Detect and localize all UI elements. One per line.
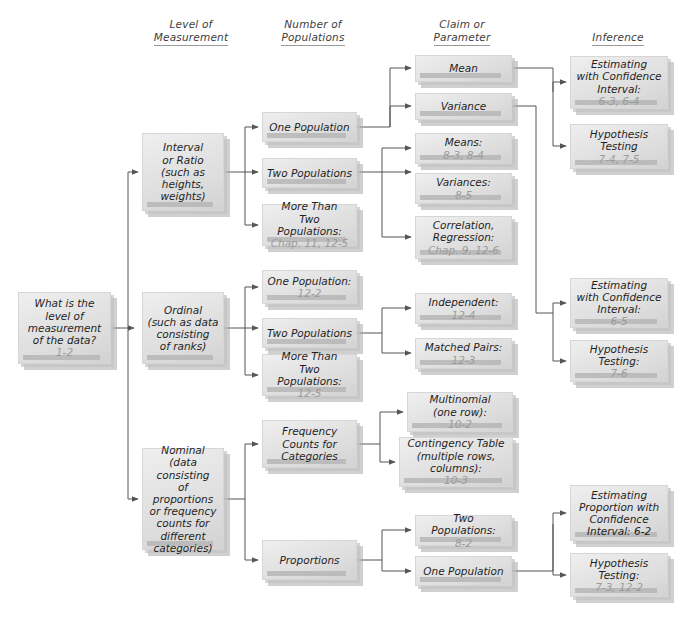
box-face: Estimating with Confidence Interval: 6-5 [570, 278, 668, 328]
node-label-line: measurement [24, 322, 106, 334]
box-face: Correlation, Regression: Chap. 9, 12-6 [415, 216, 512, 259]
box-face: Hypothesis Testing 7-4, 7-5 [570, 124, 668, 169]
node-label-line: consisting [152, 328, 213, 340]
node-reference: 12-4 [448, 309, 480, 321]
node-independent[interactable]: Independent: 12-4 [415, 293, 512, 324]
node-label-line: Mean [445, 62, 482, 74]
box-face: Contingency Table (multiple rows, column… [399, 437, 513, 487]
node-reference: 12-5 [294, 387, 326, 399]
node-label-line: weights) [157, 190, 210, 202]
node-label-line: Multinomial [425, 393, 494, 405]
node-hypothesis-testing-3[interactable]: Hypothesis Testing: 7-3, 12-2 [570, 553, 668, 597]
node-label-line: different [156, 530, 209, 542]
column-header-claim-or-parameter: Claim or Parameter [412, 18, 512, 46]
node-label-line: (one row): [429, 406, 491, 418]
node-label-line: Confidence [585, 513, 652, 525]
box-face: Estimating Proportion with Confidence In… [570, 485, 668, 541]
node-correlation-regression[interactable]: Correlation, Regression: Chap. 9, 12-6 [415, 216, 512, 259]
node-hypothesis-testing-1[interactable]: Hypothesis Testing 7-4, 7-5 [570, 124, 668, 169]
node-label-line: Testing [596, 140, 641, 152]
node-label-line: One Population [419, 565, 507, 577]
column-header-number-of-populations: Number of Populations [263, 18, 363, 46]
node-one-population-proportion[interactable]: One Population [415, 556, 512, 586]
node-label-line: counts for [153, 517, 214, 529]
box-face: Two Populations: 8-2 [415, 515, 512, 546]
node-label-line: columns): [426, 462, 486, 474]
node-start-question[interactable]: What is the level of measurement of the … [18, 292, 111, 364]
node-label-line: Estimating [587, 489, 651, 501]
node-two-populations-proportion[interactable]: Two Populations: 8-2 [415, 515, 512, 546]
node-reference: 6-5 [606, 315, 631, 327]
node-label-line: Two Populations: [416, 512, 511, 537]
node-two-populations-interval[interactable]: Two Populations [262, 158, 357, 188]
node-interval-or-ratio[interactable]: Interval or Ratio (such as heights, weig… [142, 133, 224, 211]
node-reference: 1-2 [52, 346, 77, 358]
node-means[interactable]: Means: 8-3, 8-4 [415, 133, 512, 164]
node-frequency-counts-for-categories[interactable]: Frequency Counts for Categories [262, 420, 357, 468]
node-label-line: What is the [31, 297, 99, 309]
node-matched-pairs[interactable]: Matched Pairs: 12-3 [415, 338, 512, 369]
node-multinomial[interactable]: Multinomial (one row): 10-2 [407, 392, 513, 432]
box-face: Multinomial (one row): 10-2 [407, 392, 513, 432]
node-label-line: Variances: [432, 176, 495, 188]
node-reference: 8-5 [451, 189, 476, 201]
node-proportions[interactable]: Proportions [262, 540, 357, 580]
node-label-line: Proportion with [575, 501, 663, 513]
box-face: Variance [415, 93, 512, 120]
node-hypothesis-testing-2[interactable]: Hypothesis Testing: 7-6 [570, 340, 668, 382]
column-header-line1: Claim or [412, 18, 512, 31]
node-one-population-interval[interactable]: One Population [262, 112, 357, 142]
node-variances[interactable]: Variances: 8-5 [415, 173, 512, 204]
node-label-line: Two Populations: [263, 213, 356, 238]
box-face: Variances: 8-5 [415, 173, 512, 204]
column-header-line1: Inference [592, 31, 643, 46]
node-more-than-two-populations-ordinal[interactable]: More Than Two Populations: 12-5 [262, 354, 357, 396]
node-contingency-table[interactable]: Contingency Table (multiple rows, column… [399, 437, 513, 487]
node-label-line: Means: [441, 136, 487, 148]
node-label-line: Testing: [595, 355, 644, 367]
node-label-line: of ranks) [156, 340, 211, 352]
node-reference: Chap. 11, 12-5 [267, 237, 353, 249]
column-header-line1: Number of [263, 18, 363, 31]
box-face: Frequency Counts for Categories [262, 420, 357, 468]
box-face: More Than Two Populations: Chap. 11, 12-… [262, 204, 357, 246]
node-reference: 10-2 [444, 418, 476, 430]
node-label-line: Interval: [593, 83, 645, 95]
node-label-line: More Than [278, 350, 342, 362]
node-label-line: Nominal [157, 444, 208, 456]
node-label-line: with Confidence [573, 291, 666, 303]
node-label-line: (such as [157, 166, 209, 178]
node-label-line: level of [41, 310, 87, 322]
node-label-line: Hypothesis [586, 343, 652, 355]
box-face: Means: 8-3, 8-4 [415, 133, 512, 164]
box-face: One Population [415, 556, 512, 586]
node-label-line: Counts for [278, 438, 340, 450]
node-mean[interactable]: Mean [415, 55, 512, 82]
node-label-line: Variance [437, 100, 491, 112]
node-reference: 8-3, 8-4 [439, 149, 488, 161]
node-ordinal[interactable]: Ordinal (such as data consisting of rank… [142, 292, 224, 364]
node-reference: 6-3, 6-4 [595, 95, 644, 107]
node-reference: 10-3 [440, 474, 472, 486]
box-face: Ordinal (such as data consisting of rank… [142, 292, 224, 364]
node-label-line: with Confidence [573, 70, 666, 82]
box-face: What is the level of measurement of the … [18, 292, 111, 364]
node-label-line: Regression: [429, 231, 499, 243]
node-label-line: or frequency [146, 505, 221, 517]
node-two-populations-ordinal[interactable]: Two Populations [262, 318, 357, 348]
node-nominal[interactable]: Nominal (data consisting of proportions … [142, 448, 224, 550]
node-label-line: Interval: [593, 303, 645, 315]
node-variance[interactable]: Variance [415, 93, 512, 120]
node-label-line: Ordinal [160, 304, 206, 316]
node-estimating-with-ci-2[interactable]: Estimating with Confidence Interval: 6-5 [570, 278, 668, 328]
node-estimating-proportion-ci[interactable]: Estimating Proportion with Confidence In… [570, 485, 668, 541]
box-face: Two Populations [262, 158, 357, 188]
node-label-line: One Population [265, 121, 353, 133]
node-more-than-two-populations-interval[interactable]: More Than Two Populations: Chap. 11, 12-… [262, 204, 357, 246]
node-label-line: Testing: [595, 569, 644, 581]
node-label-line: Correlation, [429, 219, 499, 231]
box-face: Hypothesis Testing: 7-3, 12-2 [570, 553, 668, 597]
box-face: More Than Two Populations: 12-5 [262, 354, 357, 396]
node-estimating-with-ci-1[interactable]: Estimating with Confidence Interval: 6-3… [570, 56, 668, 109]
node-one-population-ordinal[interactable]: One Population: 12-2 [262, 270, 357, 304]
